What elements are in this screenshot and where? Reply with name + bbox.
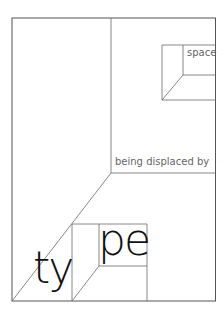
type-box-diagonal bbox=[72, 266, 99, 301]
word-ty: ty bbox=[33, 246, 72, 290]
space-box-diagonal bbox=[162, 75, 183, 100]
word-being-displaced-by: being displaced by bbox=[115, 157, 209, 167]
word-space: space bbox=[187, 48, 216, 58]
word-pe: pe bbox=[98, 218, 149, 262]
